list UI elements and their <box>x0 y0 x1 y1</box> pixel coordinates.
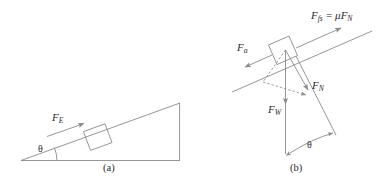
normal-extension-line <box>296 56 336 135</box>
applied-subscript: a <box>244 46 248 55</box>
force-subscript: E <box>59 116 64 125</box>
incline-angle-arc <box>54 148 57 161</box>
normal-subscript: N <box>319 84 324 93</box>
panel-a-caption: (a) <box>103 163 115 174</box>
weight-symbol: F <box>268 103 275 115</box>
friction-symbol: F <box>311 9 318 21</box>
block-on-incline <box>84 124 113 151</box>
block-on-incline-b <box>269 36 298 65</box>
incline-angle-label-a: θ <box>38 144 43 154</box>
physics-figure: FE θ (a) Ffs=μFN Fa FN FW θ (b) <box>0 0 378 186</box>
applied-symbol: F <box>237 41 244 53</box>
applied-force-label-b: Fa <box>237 42 248 55</box>
applied-force-arrow-a <box>47 124 84 137</box>
panel-b-linework <box>232 28 372 154</box>
normal-subscript-rhs: N <box>347 14 352 23</box>
applied-force-arrow-b <box>245 55 272 67</box>
weight-force-label: FW <box>268 104 281 117</box>
friction-force-arrow <box>296 28 341 48</box>
incline-surface <box>21 103 180 161</box>
force-symbol: F <box>52 111 59 123</box>
normal-force-label: FN <box>312 80 324 93</box>
equals-sign: = <box>326 9 332 21</box>
component-dashed-bottom <box>263 82 306 95</box>
incline-surface-b <box>232 31 372 92</box>
panel-a-linework <box>21 103 180 161</box>
friction-subscript: fs <box>318 14 323 23</box>
panel-b-caption: (b) <box>290 163 302 174</box>
weight-subscript: W <box>275 108 281 117</box>
applied-force-label-a: FE <box>52 112 63 125</box>
incline-angle-label-b: θ <box>307 140 312 150</box>
friction-force-label: Ffs=μFN <box>311 10 353 23</box>
normal-symbol: F <box>312 79 319 91</box>
